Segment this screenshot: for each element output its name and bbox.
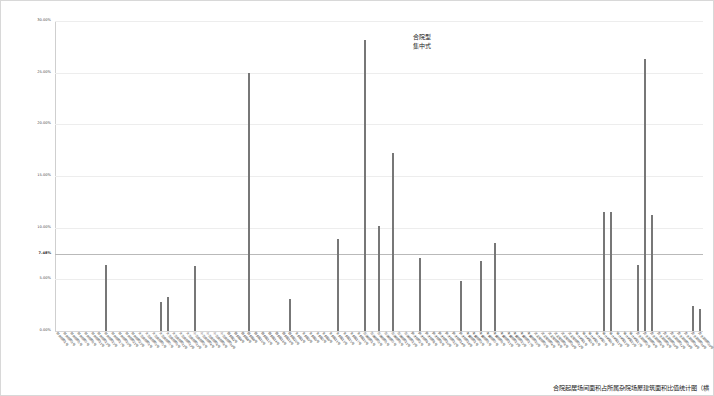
bar — [289, 299, 291, 331]
annotation-line-2: 集中式 — [413, 42, 431, 51]
bar — [494, 243, 496, 331]
bar — [460, 281, 462, 331]
bar — [603, 212, 605, 331]
x-axis-labels-group: 前井胡同1号前井胡同3号前井胡同5号前井胡同7号前井胡同9号前井胡同11号前井胡… — [55, 332, 703, 374]
series-annotation: 合院型 集中式 — [413, 33, 431, 50]
bar — [692, 306, 694, 331]
y-axis-tick-label: 20.00% — [21, 123, 51, 127]
bar — [337, 239, 339, 331]
bar — [419, 258, 421, 331]
y-axis-tick-label: 15.00% — [21, 174, 51, 178]
bar — [160, 302, 162, 331]
y-axis-tick-label: 10.00% — [21, 226, 51, 230]
bar — [167, 297, 169, 331]
bar — [392, 153, 394, 331]
bar — [480, 261, 482, 331]
bar — [248, 73, 250, 331]
plot-area: 30.00%25.00%20.00%15.00%10.00%7.48%5.00%… — [55, 21, 703, 331]
figure-caption: 合院起居场间面积占所属杂院场屋建筑面积比值统计图（横 — [553, 384, 709, 391]
bar — [637, 265, 639, 331]
gridline-15.00 — [55, 176, 703, 177]
gridline-20.00 — [55, 124, 703, 125]
bar — [194, 266, 196, 331]
bar — [651, 215, 653, 331]
bar — [364, 40, 366, 331]
bar — [699, 309, 701, 331]
chart-page: 30.00%25.00%20.00%15.00%10.00%7.48%5.00%… — [0, 0, 714, 396]
y-axis-tick-label: 0.00% — [21, 329, 51, 333]
y-axis-tick-label: 7.48% — [21, 252, 51, 256]
bar — [105, 265, 107, 331]
bar — [644, 59, 646, 331]
bar — [610, 212, 612, 331]
bar — [378, 226, 380, 331]
y-axis-tick-label: 25.00% — [21, 71, 51, 75]
gridline-30.00 — [55, 21, 703, 22]
y-axis-tick-label: 30.00% — [21, 19, 51, 23]
annotation-line-1: 合院型 — [413, 33, 431, 42]
y-axis-tick-label: 5.00% — [21, 278, 51, 282]
gridline-25.00 — [55, 73, 703, 74]
